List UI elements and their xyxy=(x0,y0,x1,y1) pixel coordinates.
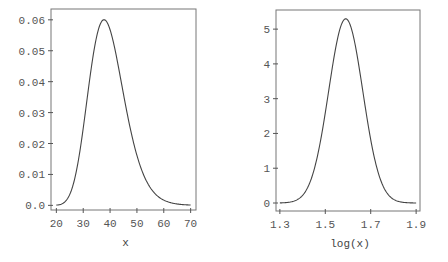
x-axis-label: log(x) xyxy=(330,238,370,250)
plot-frame xyxy=(276,10,420,211)
figure-canvas: 0.00.010.020.030.040.050.06203040506070x… xyxy=(0,0,448,262)
y-tick-label: 0.02 xyxy=(19,139,45,151)
x-tick-label: 50 xyxy=(130,218,143,230)
y-tick-label: 1 xyxy=(263,163,270,175)
x-tick-label: 1.3 xyxy=(270,219,290,231)
x-tick-label: 40 xyxy=(103,218,116,230)
chart-right-logx-density: 0123451.31.51.71.9log(x) xyxy=(263,10,426,250)
x-axis-label: x xyxy=(122,237,129,249)
density-curve xyxy=(280,19,416,203)
y-tick-label: 0.06 xyxy=(19,15,45,27)
density-curve xyxy=(56,20,190,205)
x-tick-label: 1.7 xyxy=(361,219,381,231)
x-tick-label: 1.9 xyxy=(406,219,426,231)
y-tick-label: 0.04 xyxy=(19,77,46,89)
chart-left-x-density: 0.00.010.020.030.040.050.06203040506070x xyxy=(19,9,198,249)
y-tick-label: 0.03 xyxy=(19,108,45,120)
y-tick-label: 5 xyxy=(263,24,270,36)
y-tick-label: 2 xyxy=(263,128,270,140)
x-tick-label: 30 xyxy=(77,218,90,230)
y-tick-label: 0.0 xyxy=(25,200,45,212)
y-tick-label: 4 xyxy=(263,59,270,71)
x-tick-label: 1.5 xyxy=(315,219,335,231)
y-tick-label: 0 xyxy=(263,198,270,210)
y-tick-label: 3 xyxy=(263,94,270,106)
y-tick-label: 0.01 xyxy=(19,169,46,181)
x-tick-label: 60 xyxy=(157,218,170,230)
x-tick-label: 20 xyxy=(50,218,63,230)
x-tick-label: 70 xyxy=(184,218,197,230)
y-tick-label: 0.05 xyxy=(19,46,45,58)
plot-frame xyxy=(51,9,196,210)
